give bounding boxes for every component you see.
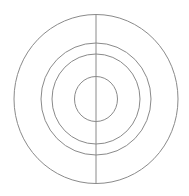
concentric-circles-diagram (0, 0, 189, 196)
